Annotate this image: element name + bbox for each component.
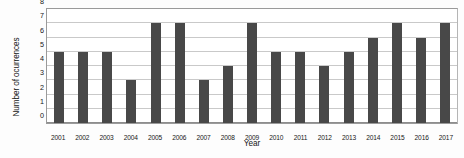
y-tick-label-6: 6 — [30, 26, 44, 33]
bars-container — [47, 9, 457, 123]
bar-2009[interactable] — [247, 23, 257, 123]
bar-2010[interactable] — [271, 52, 281, 123]
bar-2005[interactable] — [151, 23, 161, 123]
bar-slot — [312, 9, 336, 123]
y-tick-label-7: 7 — [30, 12, 44, 19]
y-tick-label-2: 2 — [30, 83, 44, 90]
x-axis-title: Year — [46, 138, 458, 150]
y-tick-label-5: 5 — [30, 40, 44, 47]
y-tick-label-4: 4 — [30, 55, 44, 62]
bar-slot — [240, 9, 264, 123]
x-tick-slot: 2016 — [410, 126, 434, 138]
x-tick-slot: 2006 — [167, 126, 191, 138]
y-tick-label-1: 1 — [30, 97, 44, 104]
bar-slot — [71, 9, 95, 123]
x-tick-slot: 2004 — [119, 126, 143, 138]
x-tick-slot: 2014 — [361, 126, 385, 138]
bar-slot — [216, 9, 240, 123]
bar-2001[interactable] — [54, 52, 64, 123]
bar-2006[interactable] — [175, 23, 185, 123]
bar-2012[interactable] — [319, 66, 329, 123]
x-tick-slot: 2003 — [94, 126, 118, 138]
x-tick-slot: 2002 — [70, 126, 94, 138]
bar-slot — [144, 9, 168, 123]
bar-2007[interactable] — [199, 80, 209, 123]
x-tick-slot: 2005 — [143, 126, 167, 138]
x-tick-slot: 2011 — [288, 126, 312, 138]
x-tick-slot: 2009 — [240, 126, 264, 138]
bar-slot — [119, 9, 143, 123]
bar-2017[interactable] — [440, 23, 450, 123]
bar-2004[interactable] — [126, 80, 136, 123]
bar-2002[interactable] — [78, 52, 88, 123]
bar-slot — [264, 9, 288, 123]
bar-slot — [95, 9, 119, 123]
y-axis-tick-labels: 012345678 — [30, 8, 44, 122]
bar-slot — [337, 9, 361, 123]
x-tick-slot: 2017 — [434, 126, 458, 138]
y-axis-title: Number of ocurrences — [10, 12, 24, 142]
bar-slot — [385, 9, 409, 123]
x-tick-slot: 2008 — [216, 126, 240, 138]
bar-2011[interactable] — [295, 52, 305, 123]
bar-slot — [192, 9, 216, 123]
bar-2015[interactable] — [392, 23, 402, 123]
bar-2008[interactable] — [223, 66, 233, 123]
x-tick-slot: 2010 — [264, 126, 288, 138]
bar-slot — [433, 9, 457, 123]
bar-2003[interactable] — [102, 52, 112, 123]
x-tick-slot: 2007 — [191, 126, 215, 138]
bar-chart-figure: Number of ocurrences 012345678 200120022… — [0, 0, 464, 158]
x-tick-slot: 2015 — [385, 126, 409, 138]
bar-slot — [168, 9, 192, 123]
bar-slot — [288, 9, 312, 123]
bar-2016[interactable] — [416, 38, 426, 124]
plot-area — [46, 8, 458, 124]
x-tick-slot: 2013 — [337, 126, 361, 138]
bar-slot — [409, 9, 433, 123]
bar-slot — [47, 9, 71, 123]
bar-slot — [361, 9, 385, 123]
x-axis-tick-labels: 2001200220032004200520062007200820092010… — [46, 126, 458, 138]
y-tick-label-3: 3 — [30, 69, 44, 76]
x-tick-slot: 2012 — [313, 126, 337, 138]
bar-2014[interactable] — [368, 38, 378, 124]
x-tick-slot: 2001 — [46, 126, 70, 138]
y-tick-label-8: 8 — [30, 0, 44, 5]
bar-2013[interactable] — [344, 52, 354, 123]
y-tick-label-0: 0 — [30, 112, 44, 119]
